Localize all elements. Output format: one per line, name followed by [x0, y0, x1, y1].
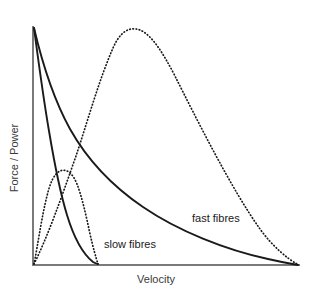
curve-fast-fibres-power [34, 29, 297, 264]
y-axis-title: Force / Power [8, 123, 20, 192]
label-layer: Velocity Force / Power fast fibres slow … [8, 123, 240, 285]
x-axis-title: Velocity [137, 273, 175, 285]
series-label-slow-fibres: slow fibres [104, 238, 156, 250]
chart-canvas: Velocity Force / Power fast fibres slow … [0, 0, 312, 292]
curve-fast-fibres-force [34, 28, 298, 265]
force-velocity-power-chart: Velocity Force / Power fast fibres slow … [0, 0, 312, 292]
series-label-fast-fibres: fast fibres [192, 212, 240, 224]
